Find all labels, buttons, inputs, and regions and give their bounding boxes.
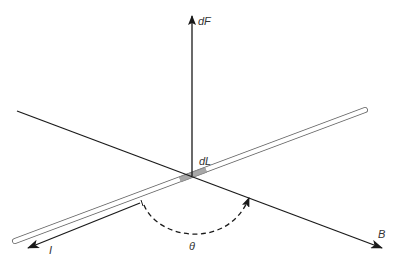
current-i-arrow (28, 203, 140, 248)
diagram-canvas: dF dL I B θ (0, 0, 398, 262)
label-i: I (49, 244, 52, 256)
label-b: B (378, 228, 385, 240)
label-df: dF (198, 15, 212, 27)
label-dl: dL (199, 155, 211, 167)
field-b-arrow (17, 111, 382, 248)
label-theta: θ (189, 240, 195, 252)
angle-theta-arc (144, 198, 249, 234)
current-tick (141, 200, 143, 206)
